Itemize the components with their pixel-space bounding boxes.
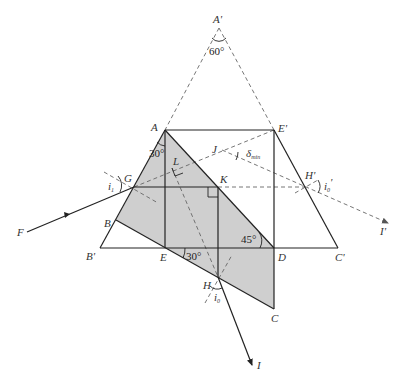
label-b: B — [104, 217, 111, 229]
angle-a-30: 30° — [149, 147, 164, 159]
label-d: D — [277, 251, 286, 263]
label-k: K — [219, 173, 228, 185]
symbol-i1: i1 — [108, 180, 114, 193]
label-f: F — [16, 226, 24, 238]
symbol-i0-prime: i0' — [324, 176, 333, 193]
label-i-prime: I' — [379, 225, 387, 237]
label-c: C — [271, 312, 279, 324]
label-l: L — [172, 155, 179, 167]
symbol-i0: i0 — [214, 291, 220, 304]
label-e-prime: E' — [277, 122, 288, 134]
angle-e-30: 30° — [186, 250, 201, 262]
label-i: I — [256, 359, 262, 371]
label-h-prime: H' — [304, 169, 316, 181]
prism-diagram: A' A E' G L K J H' B B' E D C' H C F I I… — [0, 0, 404, 388]
label-a-prime: A' — [212, 13, 223, 25]
ray-direction-arrow — [64, 212, 70, 218]
angle-apex-60: 60° — [209, 45, 224, 57]
symbol-delta-min: δmin — [246, 147, 260, 160]
label-g: G — [124, 172, 132, 184]
label-e: E — [159, 251, 167, 263]
label-b-prime: B' — [86, 250, 96, 262]
angle-d-45: 45° — [241, 233, 256, 245]
label-c-prime: C' — [335, 251, 345, 263]
label-h: H — [202, 279, 212, 291]
label-a: A — [150, 121, 158, 133]
label-j: J — [212, 143, 218, 155]
